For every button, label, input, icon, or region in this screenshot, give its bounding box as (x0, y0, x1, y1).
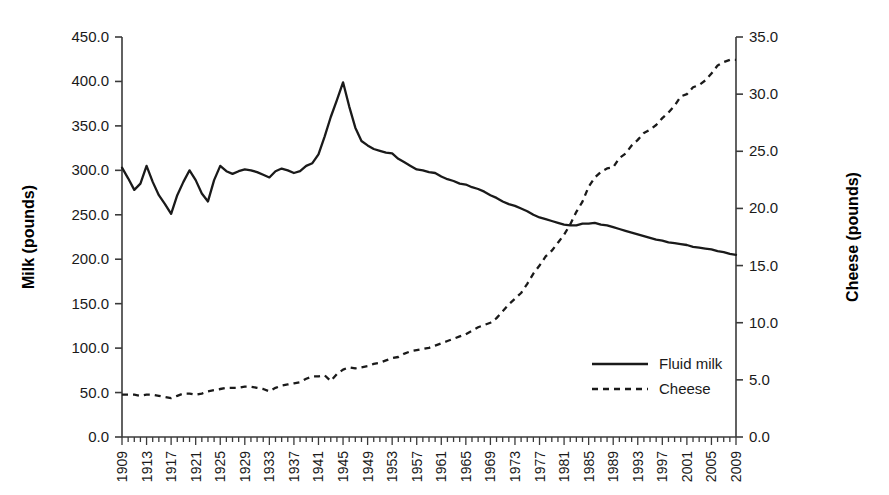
y-axis-left-tick-label: 200.0 (71, 250, 109, 267)
x-axis-tick-label: 1953 (384, 451, 400, 482)
y-axis-right-tick-label: 15.0 (749, 257, 778, 274)
y-axis-left-tick-label: 50.0 (80, 384, 109, 401)
x-axis-tick-label: 1921 (188, 451, 204, 482)
x-axis-tick-label: 2009 (728, 451, 744, 482)
x-axis-tick-label: 1965 (458, 451, 474, 482)
y-axis-left-tick-label: 0.0 (88, 428, 109, 445)
y-axis-left-tick-label: 400.0 (71, 72, 109, 89)
y-axis-right-tick-label: 35.0 (749, 28, 778, 45)
x-axis-tick-label: 1997 (654, 451, 670, 482)
x-axis-tick-label: 1945 (335, 451, 351, 482)
y-axis-left-title: Milk (pounds) (20, 185, 37, 289)
x-axis-tick-label: 1909 (114, 451, 130, 482)
series-line-fluid-milk (122, 82, 736, 254)
chart-container: 0.050.0100.0150.0200.0250.0300.0350.0400… (0, 0, 889, 495)
x-axis-tick-label: 1981 (556, 451, 572, 482)
y-axis-left-tick-label: 300.0 (71, 161, 109, 178)
x-axis-tick-label: 1977 (532, 451, 548, 482)
y-axis-right-tick-label: 5.0 (749, 371, 770, 388)
x-axis-tick-label: 1969 (482, 451, 498, 482)
y-axis-left-tick-label: 100.0 (71, 339, 109, 356)
legend-label-fluid-milk: Fluid milk (659, 355, 723, 372)
legend-label-cheese: Cheese (659, 380, 711, 397)
series-line-cheese (122, 60, 736, 398)
legend: Fluid milk Cheese (592, 355, 723, 397)
x-axis-tick-label: 1985 (581, 451, 597, 482)
line-chart: 0.050.0100.0150.0200.0250.0300.0350.0400… (0, 0, 889, 495)
y-axis-right-title: Cheese (pounds) (844, 172, 861, 302)
y-axis-left-tick-label: 450.0 (71, 28, 109, 45)
x-axis-tick-label: 1961 (433, 451, 449, 482)
y-axis-left-tick-label: 350.0 (71, 117, 109, 134)
x-axis-tick-label: 1949 (360, 451, 376, 482)
x-axis-tick-label: 1957 (409, 451, 425, 482)
x-axis-tick-label: 2005 (703, 451, 719, 482)
x-axis-tick-label: 1937 (286, 451, 302, 482)
y-axis-right-tick-label: 0.0 (749, 428, 770, 445)
x-axis-tick-label: 1993 (630, 451, 646, 482)
x-axis-tick-label: 1973 (507, 451, 523, 482)
x-axis-tick-label: 1929 (237, 451, 253, 482)
x-axis-tick-label: 1917 (163, 451, 179, 482)
y-axis-right-tick-label: 25.0 (749, 142, 778, 159)
plot-area: 0.050.0100.0150.0200.0250.0300.0350.0400… (71, 28, 778, 482)
x-axis-tick-label: 2001 (679, 451, 695, 482)
y-axis-left-tick-label: 250.0 (71, 206, 109, 223)
y-axis-right-tick-label: 30.0 (749, 85, 778, 102)
x-axis-tick-label: 1941 (310, 451, 326, 482)
x-axis-tick-label: 1933 (261, 451, 277, 482)
x-axis-tick-label: 1913 (139, 451, 155, 482)
y-axis-left-ticks: 0.050.0100.0150.0200.0250.0300.0350.0400… (71, 28, 122, 445)
x-axis-tick-label: 1925 (212, 451, 228, 482)
x-axis-tick-label: 1989 (605, 451, 621, 482)
x-axis-ticks: 1909191319171921192519291933193719411945… (114, 437, 744, 482)
y-axis-right-tick-label: 20.0 (749, 199, 778, 216)
y-axis-left-tick-label: 150.0 (71, 295, 109, 312)
y-axis-right-ticks: 0.05.010.015.020.025.030.035.0 (736, 28, 778, 445)
y-axis-right-tick-label: 10.0 (749, 314, 778, 331)
